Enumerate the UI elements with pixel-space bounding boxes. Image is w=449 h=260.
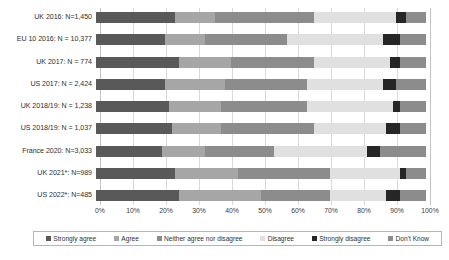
bar-segment bbox=[172, 123, 222, 134]
x-axis-tick-label: 60% bbox=[291, 206, 305, 216]
legend-label: Neither agree nor disagree bbox=[164, 235, 242, 243]
x-axis-tick-label: 30% bbox=[192, 206, 206, 216]
bar-row: UK 2021*: N=989 bbox=[0, 164, 449, 183]
bar-segment bbox=[380, 146, 426, 157]
bar-row: UK 2016: N=1,450 bbox=[0, 8, 449, 27]
category-label: UK 2016: N=1,450 bbox=[0, 13, 96, 22]
bar-row: UK 2018/19: N = 1,238 bbox=[0, 97, 449, 116]
category-label: US 2022*: N=485 bbox=[0, 191, 96, 200]
bar-segment bbox=[400, 168, 407, 179]
bar-segment bbox=[96, 57, 179, 68]
chart-legend: Strongly agreeAgreeNeither agree nor dis… bbox=[33, 231, 442, 246]
bar-segment bbox=[400, 190, 426, 201]
x-axis-tick-label: 80% bbox=[357, 206, 371, 216]
bar-row: EU 10 2016: N = 10,377 bbox=[0, 30, 449, 49]
category-label: UK 2021*: N=989 bbox=[0, 169, 96, 178]
bar-segment bbox=[205, 146, 274, 157]
bar-track bbox=[96, 146, 426, 157]
bar-segment bbox=[215, 12, 314, 23]
plot-area: UK 2016: N=1,450EU 10 2016: N = 10,377UK… bbox=[0, 0, 449, 225]
bar-segment bbox=[165, 34, 205, 45]
bar-row: UK 2017: N = 774 bbox=[0, 53, 449, 72]
legend-label: Agree bbox=[121, 235, 139, 243]
bar-row: US 2022*: N=485 bbox=[0, 186, 449, 205]
legend-swatch-icon bbox=[388, 236, 393, 241]
bar-segment bbox=[238, 168, 330, 179]
bar-segment bbox=[287, 34, 383, 45]
x-axis: 0%10%20%30%40%50%60%70%80%90%100% bbox=[100, 206, 430, 220]
bar-track bbox=[96, 123, 426, 134]
bar-row: US 2017: N = 2,424 bbox=[0, 75, 449, 94]
bar-segment bbox=[400, 57, 426, 68]
bar-segment bbox=[96, 168, 175, 179]
bar-segment bbox=[400, 123, 426, 134]
bar-segment bbox=[96, 34, 165, 45]
category-label: US 2017: N = 2,424 bbox=[0, 80, 96, 89]
bar-segment bbox=[96, 123, 172, 134]
bar-segment bbox=[314, 12, 397, 23]
bar-segment bbox=[179, 57, 232, 68]
bar-segment bbox=[406, 168, 426, 179]
category-label: EU 10 2016: N = 10,377 bbox=[0, 35, 96, 44]
legend-swatch-icon bbox=[157, 236, 162, 241]
bar-segment bbox=[205, 34, 288, 45]
bar-segment bbox=[96, 79, 165, 90]
bar-segment bbox=[314, 57, 390, 68]
bar-segment bbox=[96, 146, 162, 157]
legend-label: Strongly disagree bbox=[319, 235, 370, 243]
bar-track bbox=[96, 79, 426, 90]
bar-segment bbox=[386, 190, 399, 201]
bar-track bbox=[96, 12, 426, 23]
bar-row: US 2018/19: N = 1,037 bbox=[0, 119, 449, 138]
category-label: France 2020: N=3,033 bbox=[0, 147, 96, 156]
bar-segment bbox=[396, 79, 426, 90]
bar-segment bbox=[169, 101, 222, 112]
category-label: UK 2018/19: N = 1,238 bbox=[0, 102, 96, 111]
bar-segment bbox=[221, 101, 307, 112]
bar-track bbox=[96, 57, 426, 68]
x-axis-tick-label: 90% bbox=[390, 206, 404, 216]
x-axis-tick-label: 70% bbox=[324, 206, 338, 216]
legend-swatch-icon bbox=[114, 236, 119, 241]
bar-segment bbox=[400, 101, 426, 112]
bar-segment bbox=[307, 79, 383, 90]
bar-segment bbox=[175, 168, 238, 179]
bar-segment bbox=[162, 146, 205, 157]
stacked-bar-chart: UK 2016: N=1,450EU 10 2016: N = 10,377UK… bbox=[0, 0, 449, 260]
legend-label: Strongly agree bbox=[53, 235, 96, 243]
legend-swatch-icon bbox=[46, 236, 51, 241]
legend-swatch-icon bbox=[260, 236, 265, 241]
legend-item[interactable]: Neither agree nor disagree bbox=[157, 235, 243, 243]
bar-segment bbox=[383, 34, 400, 45]
bar-rows: UK 2016: N=1,450EU 10 2016: N = 10,377UK… bbox=[0, 8, 449, 205]
bar-segment bbox=[179, 190, 262, 201]
bar-segment bbox=[367, 146, 380, 157]
bar-segment bbox=[383, 79, 396, 90]
legend-item[interactable]: Disagree bbox=[260, 235, 294, 243]
bar-segment bbox=[396, 12, 406, 23]
bar-segment bbox=[96, 190, 179, 201]
legend-item[interactable]: Strongly disagree bbox=[312, 235, 371, 243]
bar-segment bbox=[330, 168, 399, 179]
legend-item[interactable]: Strongly agree bbox=[46, 235, 96, 243]
legend-item[interactable]: Agree bbox=[114, 235, 139, 243]
bar-segment bbox=[225, 79, 308, 90]
bar-segment bbox=[390, 57, 400, 68]
bar-row: France 2020: N=3,033 bbox=[0, 142, 449, 161]
bar-track bbox=[96, 168, 426, 179]
bar-segment bbox=[314, 123, 387, 134]
bar-segment bbox=[307, 101, 393, 112]
legend-item[interactable]: Don't Know bbox=[388, 235, 429, 243]
bar-segment bbox=[96, 12, 175, 23]
x-axis-tick-label: 100% bbox=[421, 206, 438, 216]
bar-segment bbox=[406, 12, 426, 23]
x-axis-tick-label: 40% bbox=[225, 206, 239, 216]
bar-segment bbox=[231, 57, 314, 68]
bar-segment bbox=[330, 190, 386, 201]
bar-track bbox=[96, 34, 426, 45]
legend-label: Disagree bbox=[268, 235, 294, 243]
bar-segment bbox=[386, 123, 399, 134]
legend-label: Don't Know bbox=[396, 235, 430, 243]
x-axis-tick-label: 0% bbox=[95, 206, 105, 216]
bar-segment bbox=[165, 79, 224, 90]
